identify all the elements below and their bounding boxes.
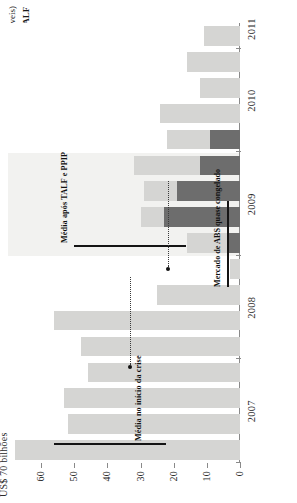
- bar-segment-total-issuance: [200, 78, 240, 98]
- chart-figure: US$ 70 bilhões Emissão total (classes el…: [0, 0, 297, 503]
- rule-avg-start-crisis: [54, 443, 166, 445]
- y-tick-mark-40: [107, 463, 108, 468]
- x-tick-label-2010: 2010: [246, 90, 257, 112]
- callout-frozen-abs-market: Mercado de ABS quase congelado: [213, 169, 222, 287]
- plot-area: 0102030405060 20072008200920102011 Média…: [8, 23, 240, 463]
- y-tick-label-10: 10: [201, 471, 212, 497]
- leader-dot-lehman: [128, 365, 132, 369]
- y-tick-mark-30: [141, 463, 142, 468]
- y-tick-label-50: 50: [68, 471, 79, 497]
- bar-2008-q1: [81, 337, 240, 357]
- x-tick-label-2009: 2009: [246, 193, 257, 215]
- bar-2008-q4: [230, 259, 240, 279]
- rule-label-avg-after-talf-ppip: Média após TALF e PPIP: [60, 152, 69, 243]
- y-tick-label-20: 20: [168, 471, 179, 497]
- bar-2010-q3: [200, 78, 240, 98]
- bar-segment-talf-committed: [177, 181, 240, 201]
- x-tick-label-2008: 2008: [246, 297, 257, 319]
- rule-label-avg-start-crisis: Média no início da crise: [134, 355, 143, 441]
- bar-2009-q3: [144, 181, 240, 201]
- bar-2007-q3: [64, 388, 240, 408]
- y-tick-mark-0: [240, 463, 241, 468]
- leader-line-lehman: [130, 277, 131, 365]
- bar-segment-total-issuance: [81, 337, 240, 357]
- bar-2007-q4: [88, 363, 240, 383]
- rule-avg-after-talf-ppip: [74, 245, 186, 247]
- bar-segment-total-issuance: [160, 104, 240, 124]
- bar-2008-q2: [54, 311, 240, 331]
- bar-2011-q1: [204, 26, 240, 46]
- x-tick-label-2011: 2011: [246, 18, 257, 40]
- bar-segment-total-issuance: [68, 414, 240, 434]
- bar-segment-total-issuance: [230, 259, 240, 279]
- bar-2008-q3: [157, 285, 240, 305]
- x-tick-label-2007: 2007: [246, 400, 257, 422]
- bar-segment-total-issuance: [54, 311, 240, 331]
- bar-segment-total-issuance: [187, 52, 240, 72]
- y-tick-mark-20: [174, 463, 175, 468]
- y-tick-mark-10: [207, 463, 208, 468]
- bar-segment-total-issuance: [64, 388, 240, 408]
- y-tick-mark-50: [74, 463, 75, 468]
- bar-2009-q4: [134, 156, 240, 176]
- y-tick-label-40: 40: [101, 471, 112, 497]
- y-tick-mark-60: [41, 463, 42, 468]
- x-tick-mark-2009: [236, 255, 241, 256]
- x-tick-mark-2008: [236, 358, 241, 359]
- bar-segment-total-issuance: [204, 26, 240, 46]
- y-tick-label-0: 0: [234, 471, 245, 497]
- leader-dot-talf: [166, 267, 170, 271]
- bar-2007-q2: [68, 414, 240, 434]
- bar-2010-q4: [187, 52, 240, 72]
- y-tick-label-30: 30: [135, 471, 146, 497]
- bar-2010-q1: [167, 130, 240, 150]
- y-tick-label-60: 60: [35, 471, 46, 497]
- bar-segment-talf-committed: [210, 130, 240, 150]
- bar-segment-total-issuance: [88, 363, 240, 383]
- bar-2010-q2: [160, 104, 240, 124]
- bar-segment-total-issuance: [157, 285, 240, 305]
- leader-line-talf: [168, 181, 169, 267]
- bar-2009-q2: [141, 207, 240, 227]
- rotated-figure-wrapper: US$ 70 bilhões Emissão total (classes el…: [0, 0, 297, 503]
- x-tick-mark-2010: [236, 151, 241, 152]
- x-tick-mark-2011: [236, 48, 241, 49]
- x-tick-mark-2007: [236, 462, 241, 463]
- callout-underline-frozen: [227, 201, 229, 287]
